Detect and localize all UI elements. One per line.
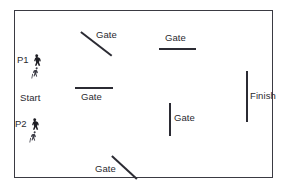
gate-label: Gate (174, 112, 195, 123)
gate-label: Gate (96, 29, 117, 40)
player-marker-p1: P1 (17, 54, 45, 80)
finish-line-line (246, 71, 248, 122)
player-tag: P2 (15, 118, 27, 129)
player-marker-p2: P2 (15, 118, 43, 144)
player-figure-icons (31, 54, 45, 80)
player-figure-icons (29, 118, 43, 144)
finish-label: Finish (250, 90, 276, 101)
arena-frame (14, 10, 273, 178)
gate-label: Gate (165, 32, 186, 43)
gate-label: Gate (95, 163, 116, 174)
gate-3-line (75, 87, 113, 89)
course-diagram: GateGateGateGateGate Finish Start P1P2 (0, 0, 290, 192)
gate-2-line (159, 48, 196, 50)
runner-figure-icon (31, 67, 41, 79)
rider-figure-icon (30, 118, 41, 131)
runner-figure-icon (29, 131, 39, 143)
gate-label: Gate (81, 91, 102, 102)
start-label: Start (20, 92, 41, 103)
rider-figure-icon (32, 54, 43, 67)
player-tag: P1 (17, 54, 29, 65)
gate-4-line (169, 103, 171, 136)
